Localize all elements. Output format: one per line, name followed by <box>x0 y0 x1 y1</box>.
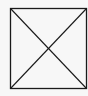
diagram-canvas <box>0 0 88 96</box>
crossed-box-icon <box>0 0 88 96</box>
